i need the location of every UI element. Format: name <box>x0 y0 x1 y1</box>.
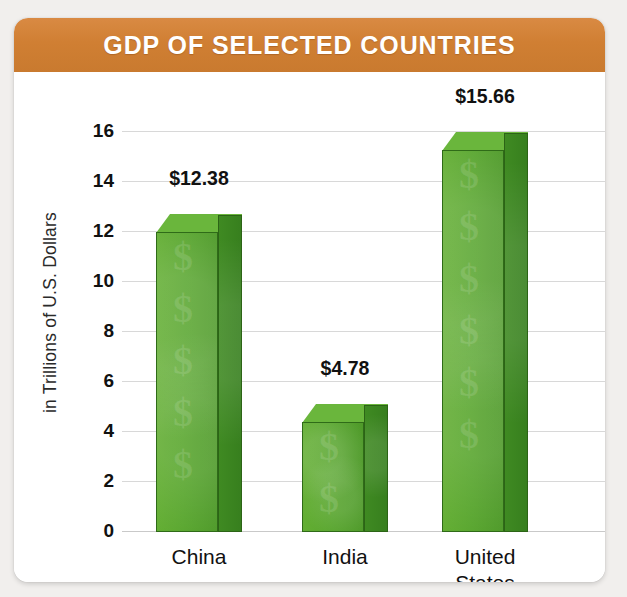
bar-side-china <box>218 215 242 532</box>
chart-title-banner: GDP OF SELECTED COUNTRIES <box>14 18 605 72</box>
y-tick-label-16: 16 <box>44 120 114 142</box>
x-category-label-china: China <box>114 544 284 570</box>
x-category-label-united-states-line2: States <box>400 570 570 582</box>
bar-front-united-states: $$$$$$ <box>442 150 504 532</box>
y-tick-label-6: 6 <box>44 370 114 392</box>
dollar-watermark-india: $$ <box>303 421 365 531</box>
x-category-label-china-line1: China <box>114 544 284 570</box>
dollar-watermark-united-states: $$$$$$ <box>443 149 505 531</box>
bar-group-united-states: $15.66 $$$$$$ United States <box>442 72 528 532</box>
y-tick-label-14: 14 <box>44 170 114 192</box>
bar-side-united-states <box>504 133 528 532</box>
bar-group-china: $12.38 $$$$$ China <box>156 72 242 532</box>
chart-card: GDP OF SELECTED COUNTRIES in Trillions o… <box>14 18 605 582</box>
y-tick-label-8: 8 <box>44 320 114 342</box>
x-category-label-united-states: United States <box>400 544 570 582</box>
bar-value-label-china: $12.38 <box>129 167 269 190</box>
bar-value-label-india: $4.78 <box>275 357 415 380</box>
page-title: GDP OF SELECTED COUNTRIES <box>103 31 515 60</box>
y-tick-label-12: 12 <box>44 220 114 242</box>
y-tick-label-4: 4 <box>44 420 114 442</box>
y-tick-label-2: 2 <box>44 470 114 492</box>
x-category-label-united-states-line1: United <box>400 544 570 570</box>
y-tick-label-0: 0 <box>44 520 114 542</box>
bar-front-china: $$$$$ <box>156 232 218 532</box>
plot-area: in Trillions of U.S. Dollars 16 14 12 10… <box>14 72 605 582</box>
bar-side-india <box>364 405 388 532</box>
dollar-watermark-china: $$$$$ <box>157 231 219 531</box>
bar-group-india: $4.78 $$ India <box>302 72 388 532</box>
bar-front-india: $$ <box>302 422 364 532</box>
y-tick-label-10: 10 <box>44 270 114 292</box>
bar-value-label-united-states: $15.66 <box>415 85 555 108</box>
